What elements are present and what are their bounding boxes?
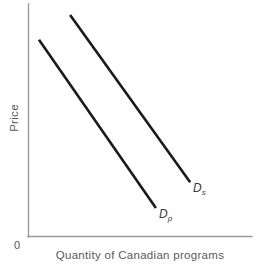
- origin-tick-label: 0: [14, 239, 20, 251]
- demand-curve-figure: 0 Price Quantity of Canadian programs Ds…: [0, 0, 259, 266]
- curve-label-dp: Dp: [159, 208, 172, 225]
- curve-label-ds: Ds: [193, 182, 206, 199]
- curve-label-dp-subscript: p: [168, 214, 172, 223]
- x-axis-label: Quantity of Canadian programs: [28, 249, 252, 261]
- curve-label-ds-letter: D: [193, 181, 202, 195]
- chart-plot-area: [0, 0, 259, 266]
- demand-curve-dp: [39, 40, 156, 208]
- y-axis-label: Price: [8, 91, 20, 145]
- curve-label-ds-subscript: s: [202, 188, 206, 197]
- curve-label-dp-letter: D: [159, 207, 168, 221]
- demand-curve-ds: [70, 15, 190, 182]
